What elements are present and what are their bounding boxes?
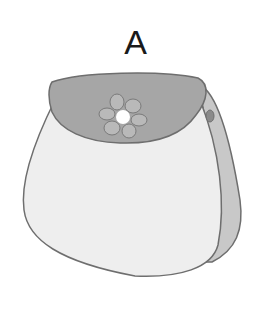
purse-button [206, 110, 214, 122]
purse-icon [0, 0, 271, 314]
